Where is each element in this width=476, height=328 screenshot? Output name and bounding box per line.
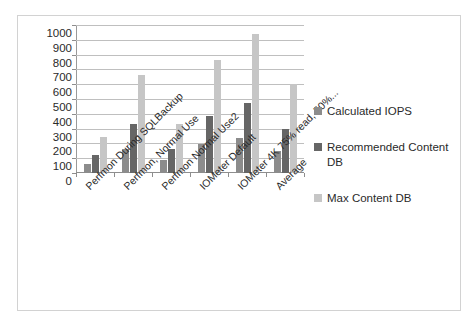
- chart-frame: 10009008007006005004003002001000 Perfmon…: [17, 15, 461, 311]
- bar-group: [266, 25, 304, 173]
- bar: [130, 124, 137, 173]
- bar: [160, 160, 167, 173]
- bar: [92, 155, 99, 173]
- y-axis-tick-label: 900: [53, 43, 72, 55]
- legend-swatch-icon: [314, 143, 322, 151]
- bar: [282, 129, 289, 173]
- y-axis-tick-label: 800: [53, 58, 72, 70]
- bar: [84, 164, 91, 173]
- bar: [100, 137, 107, 173]
- chart-legend: Calculated IOPSRecommended Content DBMax…: [314, 104, 454, 228]
- legend-label: Max Content DB: [327, 191, 411, 205]
- bar: [244, 103, 251, 173]
- x-axis-tick-mark: [228, 173, 229, 177]
- bar-group: [114, 25, 152, 173]
- bar: [274, 151, 281, 173]
- y-axis-tick-label: 500: [53, 102, 72, 114]
- y-axis-tick-label: 300: [53, 132, 72, 144]
- bar-group: [228, 25, 266, 173]
- plot-area: [76, 25, 304, 173]
- legend-item[interactable]: Calculated IOPS: [314, 104, 454, 118]
- x-axis-tick-mark: [190, 173, 191, 177]
- legend-item[interactable]: Recommended Content DB: [314, 140, 454, 169]
- x-axis-tick-mark: [114, 173, 115, 177]
- y-axis-tick-label: 700: [53, 73, 72, 85]
- bar: [176, 124, 183, 173]
- chart-plot-wrapper: 10009008007006005004003002001000 Perfmon…: [18, 16, 460, 310]
- y-axis-tick-label: 100: [53, 161, 72, 173]
- y-axis-tick-label: 200: [53, 147, 72, 159]
- x-axis-tick-mark: [76, 173, 77, 177]
- legend-swatch-icon: [314, 107, 322, 115]
- bar: [206, 116, 213, 173]
- x-axis-tick-mark: [266, 173, 267, 177]
- bar: [236, 138, 243, 173]
- y-axis-tick-label: 600: [53, 87, 72, 99]
- y-axis-tick-label: 1000: [46, 28, 72, 40]
- bar-group: [152, 25, 190, 173]
- bar: [138, 75, 145, 173]
- x-axis-tick-mark: [152, 173, 153, 177]
- legend-swatch-icon: [314, 194, 322, 202]
- y-axis-tick-label: 400: [53, 117, 72, 129]
- x-axis-tick-mark: [304, 173, 305, 177]
- legend-label: Recommended Content DB: [327, 140, 454, 169]
- bar: [252, 34, 259, 173]
- bar: [198, 144, 205, 173]
- legend-item[interactable]: Max Content DB: [314, 191, 454, 205]
- bar: [290, 84, 297, 173]
- legend-label: Calculated IOPS: [327, 104, 412, 118]
- bar: [168, 149, 175, 173]
- y-axis-tick-label: 0: [66, 176, 72, 188]
- bar-group: [190, 25, 228, 173]
- bar-group: [76, 25, 114, 173]
- bar: [122, 149, 129, 173]
- y-axis: 10009008007006005004003002001000: [24, 25, 72, 173]
- bar: [214, 60, 221, 173]
